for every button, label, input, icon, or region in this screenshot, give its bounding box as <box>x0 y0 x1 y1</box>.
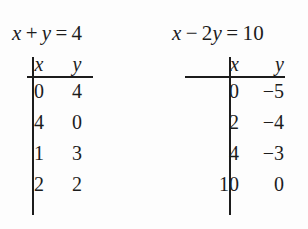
column-header-y: y <box>63 52 91 76</box>
equation-1-rhs: 4 <box>72 21 83 45</box>
equation-2-variable-x: x <box>172 21 182 45</box>
table-row: 2 −4 <box>184 107 284 138</box>
cell-x: 4 <box>184 138 245 169</box>
equation-2-equals: = <box>222 21 242 45</box>
equation-2-coefficient: 2 <box>202 21 213 45</box>
cell-y: 2 <box>63 169 91 200</box>
cell-x: 0 <box>25 76 53 107</box>
table-1-vertical-divider <box>32 57 34 215</box>
table-row: 4 0 <box>25 107 95 138</box>
equation-1: x+y=4 <box>12 18 82 48</box>
column-header-x: x <box>25 52 53 76</box>
table-row: 0 4 <box>25 76 95 107</box>
cell-x: 2 <box>25 169 53 200</box>
cell-x: 0 <box>184 76 245 107</box>
table-row: 0 −5 <box>184 76 284 107</box>
table-header-row: x y <box>25 52 95 76</box>
table-2-vertical-divider <box>229 57 231 215</box>
cell-y: 0 <box>63 107 91 138</box>
equation-2: x−2y=10 <box>172 18 264 48</box>
cell-y: 0 <box>250 169 284 200</box>
cell-x: 4 <box>25 107 53 138</box>
equation-1-equals: = <box>51 21 71 45</box>
figure-canvas: x+y=4 x y 0 4 4 0 1 3 2 2 <box>0 0 308 229</box>
table-1-horizontal-rule <box>27 76 93 78</box>
equation-2-rhs: 10 <box>242 21 264 45</box>
cell-x: 2 <box>184 107 245 138</box>
cell-y: −3 <box>250 138 284 169</box>
cell-y: −4 <box>250 107 284 138</box>
table-row: 4 −3 <box>184 138 284 169</box>
cell-x: 10 <box>184 169 245 200</box>
equation-1-variable-x: x <box>12 21 22 45</box>
solution-table-1: x y 0 4 4 0 1 3 2 2 <box>25 52 95 200</box>
cell-y: 3 <box>63 138 91 169</box>
column-header-y: y <box>250 52 284 76</box>
cell-y: −5 <box>250 76 284 107</box>
solution-table-2: x y 0 −5 2 −4 4 −3 10 0 <box>184 52 284 200</box>
cell-x: 1 <box>25 138 53 169</box>
equation-panel-1: x+y=4 x y 0 4 4 0 1 3 2 2 <box>0 0 150 229</box>
column-header-x: x <box>184 52 245 76</box>
cell-y: 4 <box>63 76 91 107</box>
table-row: 2 2 <box>25 169 95 200</box>
table-row: 10 0 <box>184 169 284 200</box>
equation-2-variable-y: y <box>213 21 223 45</box>
table-row: 1 3 <box>25 138 95 169</box>
table-header-row: x y <box>184 52 284 76</box>
equation-panel-2: x−2y=10 x y 0 −5 2 −4 4 −3 10 0 <box>158 0 308 229</box>
equation-1-variable-y: y <box>42 21 52 45</box>
table-2-horizontal-rule <box>185 76 285 78</box>
equation-1-operator: + <box>22 21 42 45</box>
equation-2-operator: − <box>182 21 202 45</box>
